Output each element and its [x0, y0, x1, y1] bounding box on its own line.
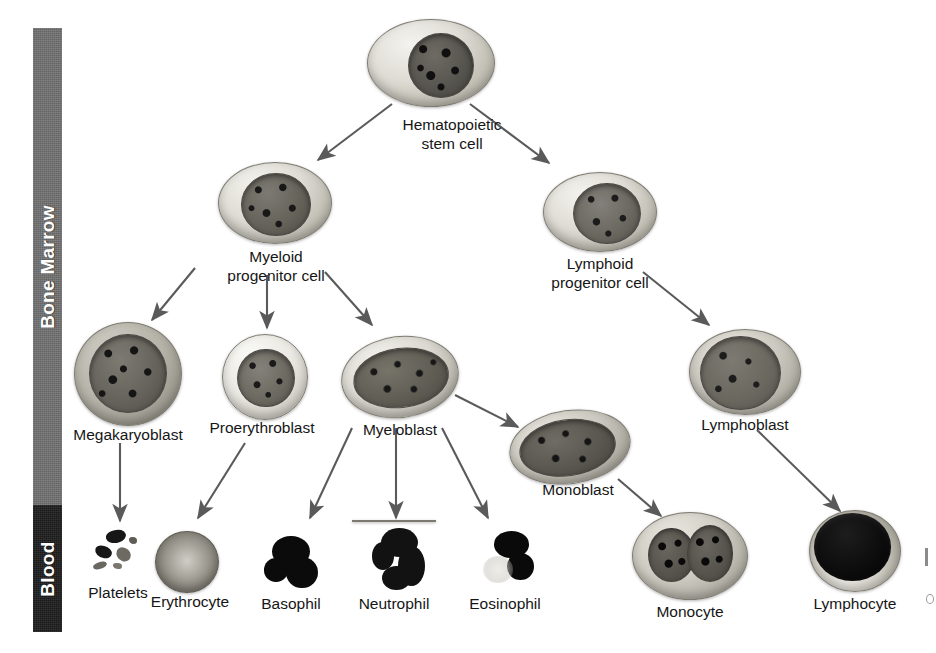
nucleus	[573, 183, 641, 244]
cell-lymphoid-progenitor-cell	[543, 172, 657, 252]
nucleus-lobe	[264, 558, 287, 582]
label-myeloblast: Myeloblast	[300, 420, 500, 439]
cell-lymphoblast	[689, 329, 801, 415]
nucleus	[814, 513, 891, 580]
cell-neutrophil	[352, 520, 436, 600]
nucleus-lobe	[372, 542, 394, 569]
label-hematopoietic-stem-cell: Hematopoietic stem cell	[352, 115, 552, 153]
label-lymphoid-progenitor-cell: Lymphoid progenitor cell	[495, 254, 705, 292]
platelet-fragment	[114, 546, 133, 564]
label-monoblast: Monoblast	[478, 480, 678, 499]
hematopoiesis-diagram: Bone Marrow Blood	[0, 0, 936, 653]
cropped-caption-remnant	[926, 594, 934, 604]
nucleus	[241, 173, 311, 236]
platelet-fragment	[104, 527, 127, 546]
nucleus	[700, 336, 780, 410]
label-lymphoblast: Lymphoblast	[645, 415, 845, 434]
label-lymphocyte: Lymphocyte	[770, 594, 936, 613]
cytoplasm-highlight	[483, 556, 513, 583]
cytoplasm	[352, 520, 436, 522]
cell-platelets	[88, 528, 150, 580]
nucleus	[408, 33, 474, 98]
compartment-label-bone-marrow: Bone Marrow	[37, 205, 59, 329]
compartment-bar-blood: Blood	[33, 505, 62, 632]
cropped-caption-remnant	[925, 548, 928, 566]
arrow-proerythroblast-to-erythrocyte	[198, 443, 245, 518]
cytoplasm	[155, 531, 219, 593]
nucleus-lobe	[382, 566, 411, 590]
platelet-fragment	[129, 537, 137, 544]
arrow-lymphoblast-to-lymphocyte	[757, 430, 840, 511]
cell-lymphocyte	[809, 510, 901, 592]
label-myeloid-progenitor-cell: Myeloid progenitor cell	[171, 247, 381, 285]
platelet-fragment	[94, 544, 113, 559]
arrow-myeloblast-to-eosinophil	[442, 428, 488, 518]
cell-hematopoietic-stem-cell	[367, 19, 495, 107]
cell-megakaryoblast	[74, 322, 182, 426]
cell-myeloblast	[336, 329, 463, 425]
cell-monocyte	[632, 512, 748, 600]
nucleus-lobe	[687, 525, 733, 581]
label-monocyte: Monocyte	[605, 602, 775, 621]
cell-erythrocyte	[155, 531, 219, 593]
platelet-fragment	[92, 560, 108, 572]
cell-eosinophil	[465, 522, 545, 600]
arrow-myeloblast-to-basophil	[310, 428, 352, 518]
platelet-fragment	[113, 563, 122, 569]
cell-basophil	[252, 524, 330, 598]
cell-proerythroblast	[222, 334, 308, 420]
cell-myeloid-progenitor-cell	[218, 162, 332, 244]
cell-monoblast	[504, 402, 635, 492]
nucleus	[237, 349, 294, 408]
nucleus-lobe	[286, 557, 317, 588]
nucleus	[89, 334, 167, 413]
label-eosinophil: Eosinophil	[425, 594, 585, 613]
